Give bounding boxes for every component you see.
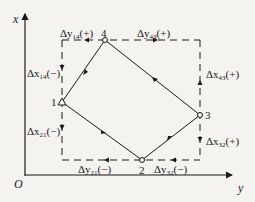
point-2-marker (140, 158, 145, 163)
dy32-label: Δy32(−) (154, 164, 187, 177)
point-2-label: 2 (139, 165, 145, 176)
traverse-diagram: x y O 1 2 3 4 Δy14(+) Δy43(+) Δx14(−) Δx… (0, 0, 255, 202)
dy21-label: Δy21(−) (78, 164, 111, 177)
dy14-label: Δy14(+) (60, 28, 93, 41)
point-1-label: 1 (51, 97, 57, 108)
origin-label: O (14, 178, 23, 190)
dx32-label: Δx32(+) (206, 136, 239, 149)
x-axis-label: x (13, 13, 18, 25)
dx21-label: Δx21(−) (27, 126, 60, 139)
dashed-bounding-box (62, 40, 200, 160)
dx14-label: Δx14(−) (27, 68, 60, 81)
point-1-marker (58, 98, 66, 105)
point-4-label: 4 (101, 28, 107, 39)
point-3-label: 3 (205, 110, 211, 121)
traverse-polygon (62, 40, 200, 160)
y-axis-label: y (238, 182, 243, 194)
dy43-label: Δy43(+) (137, 28, 170, 41)
dx43-label: Δx43(+) (206, 69, 239, 82)
diagram-canvas (0, 0, 255, 202)
point-3-marker (198, 113, 203, 118)
